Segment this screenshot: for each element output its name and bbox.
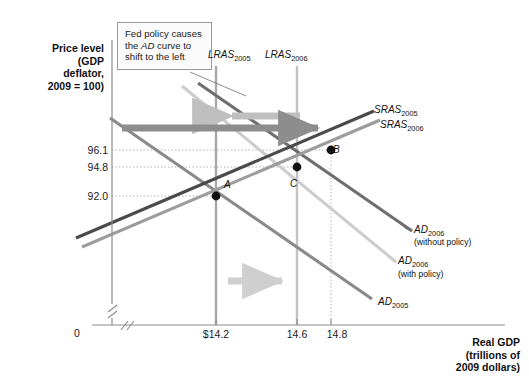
ad-2006-without-policy-label: AD2006 (without policy)	[414, 224, 471, 247]
sras-2005-label-sub: 2005	[401, 109, 417, 118]
sras-2006-label: SRAS2006	[380, 119, 424, 133]
ad-as-diagram: Price level (GDP deflator, 2009 = 100) R…	[0, 0, 529, 383]
lras-2005-label: LRAS2005	[208, 49, 251, 63]
y-axis-title: Price level (GDP deflator, 2009 = 100)	[8, 42, 104, 92]
sras-2005-label-text: SRAS	[374, 104, 401, 115]
point-label-c: C	[290, 178, 297, 189]
y-tick-label-96-1: 96.1	[68, 144, 108, 156]
point-label-b: B	[333, 144, 340, 155]
callout-emphasis-ad: AD	[141, 40, 154, 51]
lras-2006-label: LRAS2006	[265, 49, 308, 63]
equilibrium-point-a	[212, 192, 221, 201]
x-axis-title: Real GDP (trillions of 2009 dollars)	[408, 336, 520, 374]
ad-2006-without-policy-label-text: AD	[414, 224, 428, 235]
lras-2005-label-text: LRAS	[208, 49, 234, 60]
ad-2005-label: AD2005	[378, 296, 408, 310]
lras-2006-label-text: LRAS	[265, 49, 291, 60]
x-axis-title-line-1: Real GDP	[408, 336, 520, 349]
x-axis-title-line-2: (trillions of	[408, 349, 520, 362]
x-tick-label-14-8: 14.8	[314, 328, 360, 340]
callout-box: Fed policy causes the AD curve to shift …	[117, 22, 212, 70]
ad-2006-without-policy-note: (without policy)	[414, 237, 471, 247]
y-tick-label-92-0: 92.0	[68, 190, 108, 202]
sras-2006-leader	[358, 122, 378, 130]
sras-2006-label-text: SRAS	[380, 119, 407, 130]
point-label-a: A	[224, 179, 231, 190]
ad-2006-with-policy-label: AD2006 (with policy)	[398, 255, 443, 279]
axis-break-marks	[108, 305, 134, 330]
ad-2005-label-text: AD	[378, 296, 392, 307]
y-axis-title-line-4: 2009 = 100)	[8, 80, 104, 93]
ad-2006-with-policy-note: (with policy)	[398, 269, 443, 279]
sras-2005-label: SRAS2005	[374, 104, 418, 118]
ad-2005-label-sub: 2005	[392, 301, 408, 310]
sras-2006-curve	[82, 120, 380, 247]
equilibrium-point-c	[293, 163, 302, 172]
sras-2006-label-sub: 2006	[407, 124, 423, 133]
lras-2005-label-sub: 2005	[234, 54, 250, 63]
y-axis-title-line-1: Price level	[8, 42, 104, 55]
x-axis-ticks	[216, 319, 331, 325]
ad-2006-with-policy-label-text: AD	[398, 255, 412, 266]
ad-2006-with-policy-label-sub: 2006	[412, 260, 428, 269]
y-tick-label-94-8: 94.8	[68, 161, 108, 173]
origin-label: 0	[70, 327, 84, 339]
x-axis-title-line-3: 2009 dollars)	[408, 361, 520, 374]
ad-2006-with-policy-curve	[182, 86, 396, 262]
y-axis-title-line-3: deflator,	[8, 67, 104, 80]
y-axis-title-line-2: (GDP	[8, 55, 104, 68]
lras-2006-label-sub: 2006	[291, 54, 307, 63]
x-tick-label-14-2: $14.2	[193, 328, 239, 340]
